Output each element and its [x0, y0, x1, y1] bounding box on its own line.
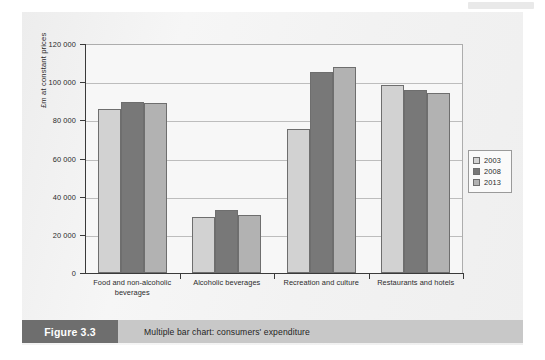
y-axis-tick-label: 120 000 [49, 40, 76, 49]
y-axis-tick [80, 235, 86, 236]
y-axis-tick-label: 80 000 [53, 116, 76, 125]
legend-label: 2003 [484, 156, 501, 165]
legend-item[interactable]: 2003 [473, 155, 507, 166]
bar [427, 93, 450, 273]
x-axis-category-label: Recreation and culture [274, 278, 369, 288]
y-axis-tick-label: 100 000 [49, 78, 76, 87]
y-axis-tick-label: 60 000 [53, 154, 76, 163]
x-axis-tick [463, 273, 464, 279]
bar [121, 102, 144, 273]
legend-item[interactable]: 2008 [473, 166, 507, 177]
figure-caption-text: Multiple bar chart: consumers' expenditu… [118, 320, 523, 343]
bar [310, 72, 333, 273]
gridline [85, 83, 462, 84]
legend-swatch-icon [473, 157, 480, 164]
legend-item[interactable]: 2013 [473, 177, 507, 188]
legend-label: 2013 [484, 178, 501, 187]
x-axis-category-label: Alcoholic beverages [180, 278, 275, 288]
y-axis-tick [80, 82, 86, 83]
bar [144, 103, 167, 273]
y-axis-tick [80, 120, 86, 121]
y-axis-tick [80, 159, 86, 160]
bar [98, 109, 121, 273]
y-axis-tick-label: 40 000 [53, 192, 76, 201]
bar [381, 85, 404, 273]
y-axis-tick-label: 0 [72, 269, 76, 278]
figure-panel: £m at constant prices 020 00040 00060 00… [22, 12, 523, 345]
bar-chart: £m at constant prices 020 00040 00060 00… [22, 12, 523, 307]
bar [215, 210, 238, 273]
legend-swatch-icon [473, 168, 480, 175]
y-axis-tick [80, 44, 86, 45]
bar [333, 67, 356, 273]
page-edge-artifact [468, 2, 534, 9]
chart-legend[interactable]: 200320082013 [468, 150, 512, 193]
figure-caption-bar: Figure 3.3 Multiple bar chart: consumers… [22, 320, 523, 343]
figure-number: Figure 3.3 [22, 320, 118, 343]
y-axis-tick [80, 197, 86, 198]
bar [192, 217, 215, 273]
bar [404, 90, 427, 273]
y-axis-title: £m at constant prices [39, 33, 48, 108]
x-axis-category-label: Restaurants and hotels [369, 278, 464, 288]
legend-label: 2008 [484, 167, 501, 176]
x-axis-category-label: Food and non-alcoholic beverages [85, 278, 180, 297]
bar [238, 215, 261, 273]
y-axis-tick-label: 20 000 [53, 230, 76, 239]
legend-swatch-icon [473, 179, 480, 186]
y-axis-tick [80, 273, 86, 274]
bar [287, 129, 310, 273]
